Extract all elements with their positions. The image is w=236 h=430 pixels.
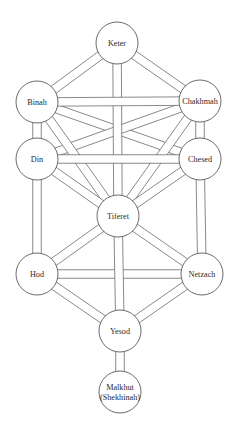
sefirah-yesod: Yesod [99, 310, 141, 352]
node-label: (Shekhinah) [100, 393, 140, 402]
sefirah-chakhmah: Chakhmah [179, 80, 221, 122]
sefirah-chesed: Chesed [179, 138, 221, 180]
path-keter-tiferet [113, 43, 123, 216]
sefirah-tiferet: Tiferet [97, 195, 139, 237]
node-label: Chesed [188, 155, 212, 164]
path-din-chesed [37, 155, 200, 164]
node-label: Chakhmah [182, 97, 217, 106]
node-label: Tiferet [107, 212, 130, 221]
sefirah-malkhut: Malkhut(Shekhinah) [99, 371, 141, 413]
path-binah-chakhmah [37, 97, 200, 107]
sefirah-hod: Hod [16, 253, 58, 295]
node-label: Malkhut [106, 383, 134, 392]
sefirah-netzach: Netzach [181, 253, 223, 295]
sefirah-din: Din [16, 138, 58, 180]
node-label: Binah [27, 98, 47, 107]
sefirah-keter: Keter [96, 22, 138, 64]
tree-of-life-diagram: KeterBinahChakhmahDinChesedTiferetHodNet… [0, 0, 236, 430]
node-label: Hod [30, 270, 44, 279]
node-label: Keter [108, 39, 126, 48]
node-label: Yesod [110, 327, 130, 336]
node-label: Din [31, 155, 43, 164]
sefirah-binah: Binah [16, 81, 58, 123]
node-label: Netzach [189, 270, 216, 279]
